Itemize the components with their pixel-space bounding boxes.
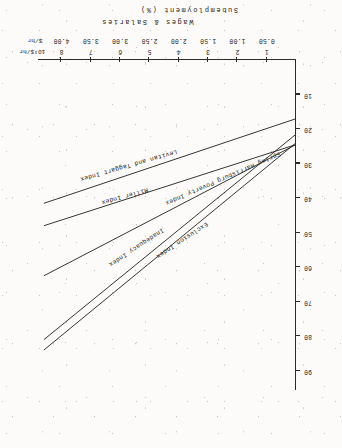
chart-figure: 10.5021.0031.5042.0052.5063.0073.5084.00…	[0, 0, 342, 448]
scanned-page: 10.5021.0031.5042.0052.5063.0073.5084.00…	[0, 0, 342, 448]
plot-lines	[0, 0, 342, 448]
